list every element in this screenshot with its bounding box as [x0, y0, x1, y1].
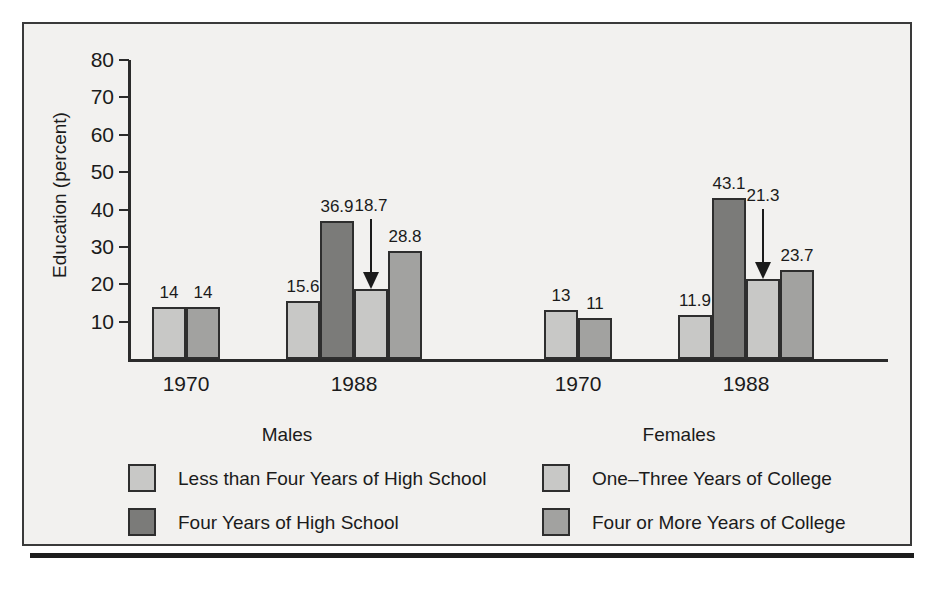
y-tick-label: 40 [52, 199, 114, 220]
legend-item: Four or More Years of College [542, 508, 845, 536]
legend-label: One–Three Years of College [592, 469, 832, 488]
bar [746, 279, 780, 359]
y-tick-mark [119, 96, 129, 98]
legend-item: Less than Four Years of High School [128, 464, 486, 492]
legend-label: Less than Four Years of High School [178, 469, 486, 488]
bar [678, 315, 712, 359]
callout-arrowhead [363, 272, 379, 289]
panel-label: Males [197, 425, 377, 444]
chart-legend: Less than Four Years of High SchoolFour … [128, 464, 868, 544]
bar [286, 301, 320, 359]
bar-value-label: 14 [172, 284, 234, 301]
legend-swatch [128, 464, 156, 492]
legend-swatch [128, 508, 156, 536]
y-tick-label: 80 [52, 49, 114, 70]
bar [544, 310, 578, 359]
category-label: 1988 [676, 373, 816, 394]
bar [388, 251, 422, 359]
y-tick-mark [119, 59, 129, 61]
y-axis-line [128, 60, 131, 362]
callout-arrowhead [755, 262, 771, 279]
y-tick-mark [119, 283, 129, 285]
x-axis-line [128, 359, 888, 362]
bar [780, 270, 814, 359]
bar [320, 221, 354, 359]
bar [578, 318, 612, 359]
legend-swatch [542, 508, 570, 536]
bottom-rule [30, 553, 914, 558]
y-tick-mark [119, 321, 129, 323]
y-tick-label: 30 [52, 236, 114, 257]
legend-swatch [542, 464, 570, 492]
y-tick-mark [119, 209, 129, 211]
panel-label: Females [589, 425, 769, 444]
y-tick-label: 20 [52, 273, 114, 294]
y-tick-mark [119, 134, 129, 136]
bar-value-label: 21.3 [746, 187, 779, 204]
y-tick-mark [119, 171, 129, 173]
legend-label: Four or More Years of College [592, 513, 845, 532]
y-tick-label: 50 [52, 161, 114, 182]
category-label: 1970 [116, 373, 256, 394]
bar [186, 307, 220, 359]
y-tick-mark [119, 246, 129, 248]
y-tick-label: 60 [52, 124, 114, 145]
bar-value-label: 11 [564, 295, 626, 312]
bar-value-label: 28.8 [374, 228, 436, 245]
bar-value-label: 18.7 [354, 197, 387, 214]
category-label: 1970 [508, 373, 648, 394]
chart-panel: Education (percent) 1020304050607080 141… [22, 22, 912, 546]
bar-value-label: 23.7 [766, 247, 828, 264]
callout-stem [370, 219, 372, 272]
bar [354, 289, 388, 359]
y-tick-label: 10 [52, 311, 114, 332]
y-tick-label: 70 [52, 86, 114, 107]
bar [152, 307, 186, 359]
legend-item: Four Years of High School [128, 508, 399, 536]
bar [712, 198, 746, 359]
callout-stem [762, 209, 764, 262]
category-label: 1988 [284, 373, 424, 394]
legend-item: One–Three Years of College [542, 464, 832, 492]
legend-label: Four Years of High School [178, 513, 399, 532]
figure: Education (percent) 1020304050607080 141… [0, 0, 938, 590]
